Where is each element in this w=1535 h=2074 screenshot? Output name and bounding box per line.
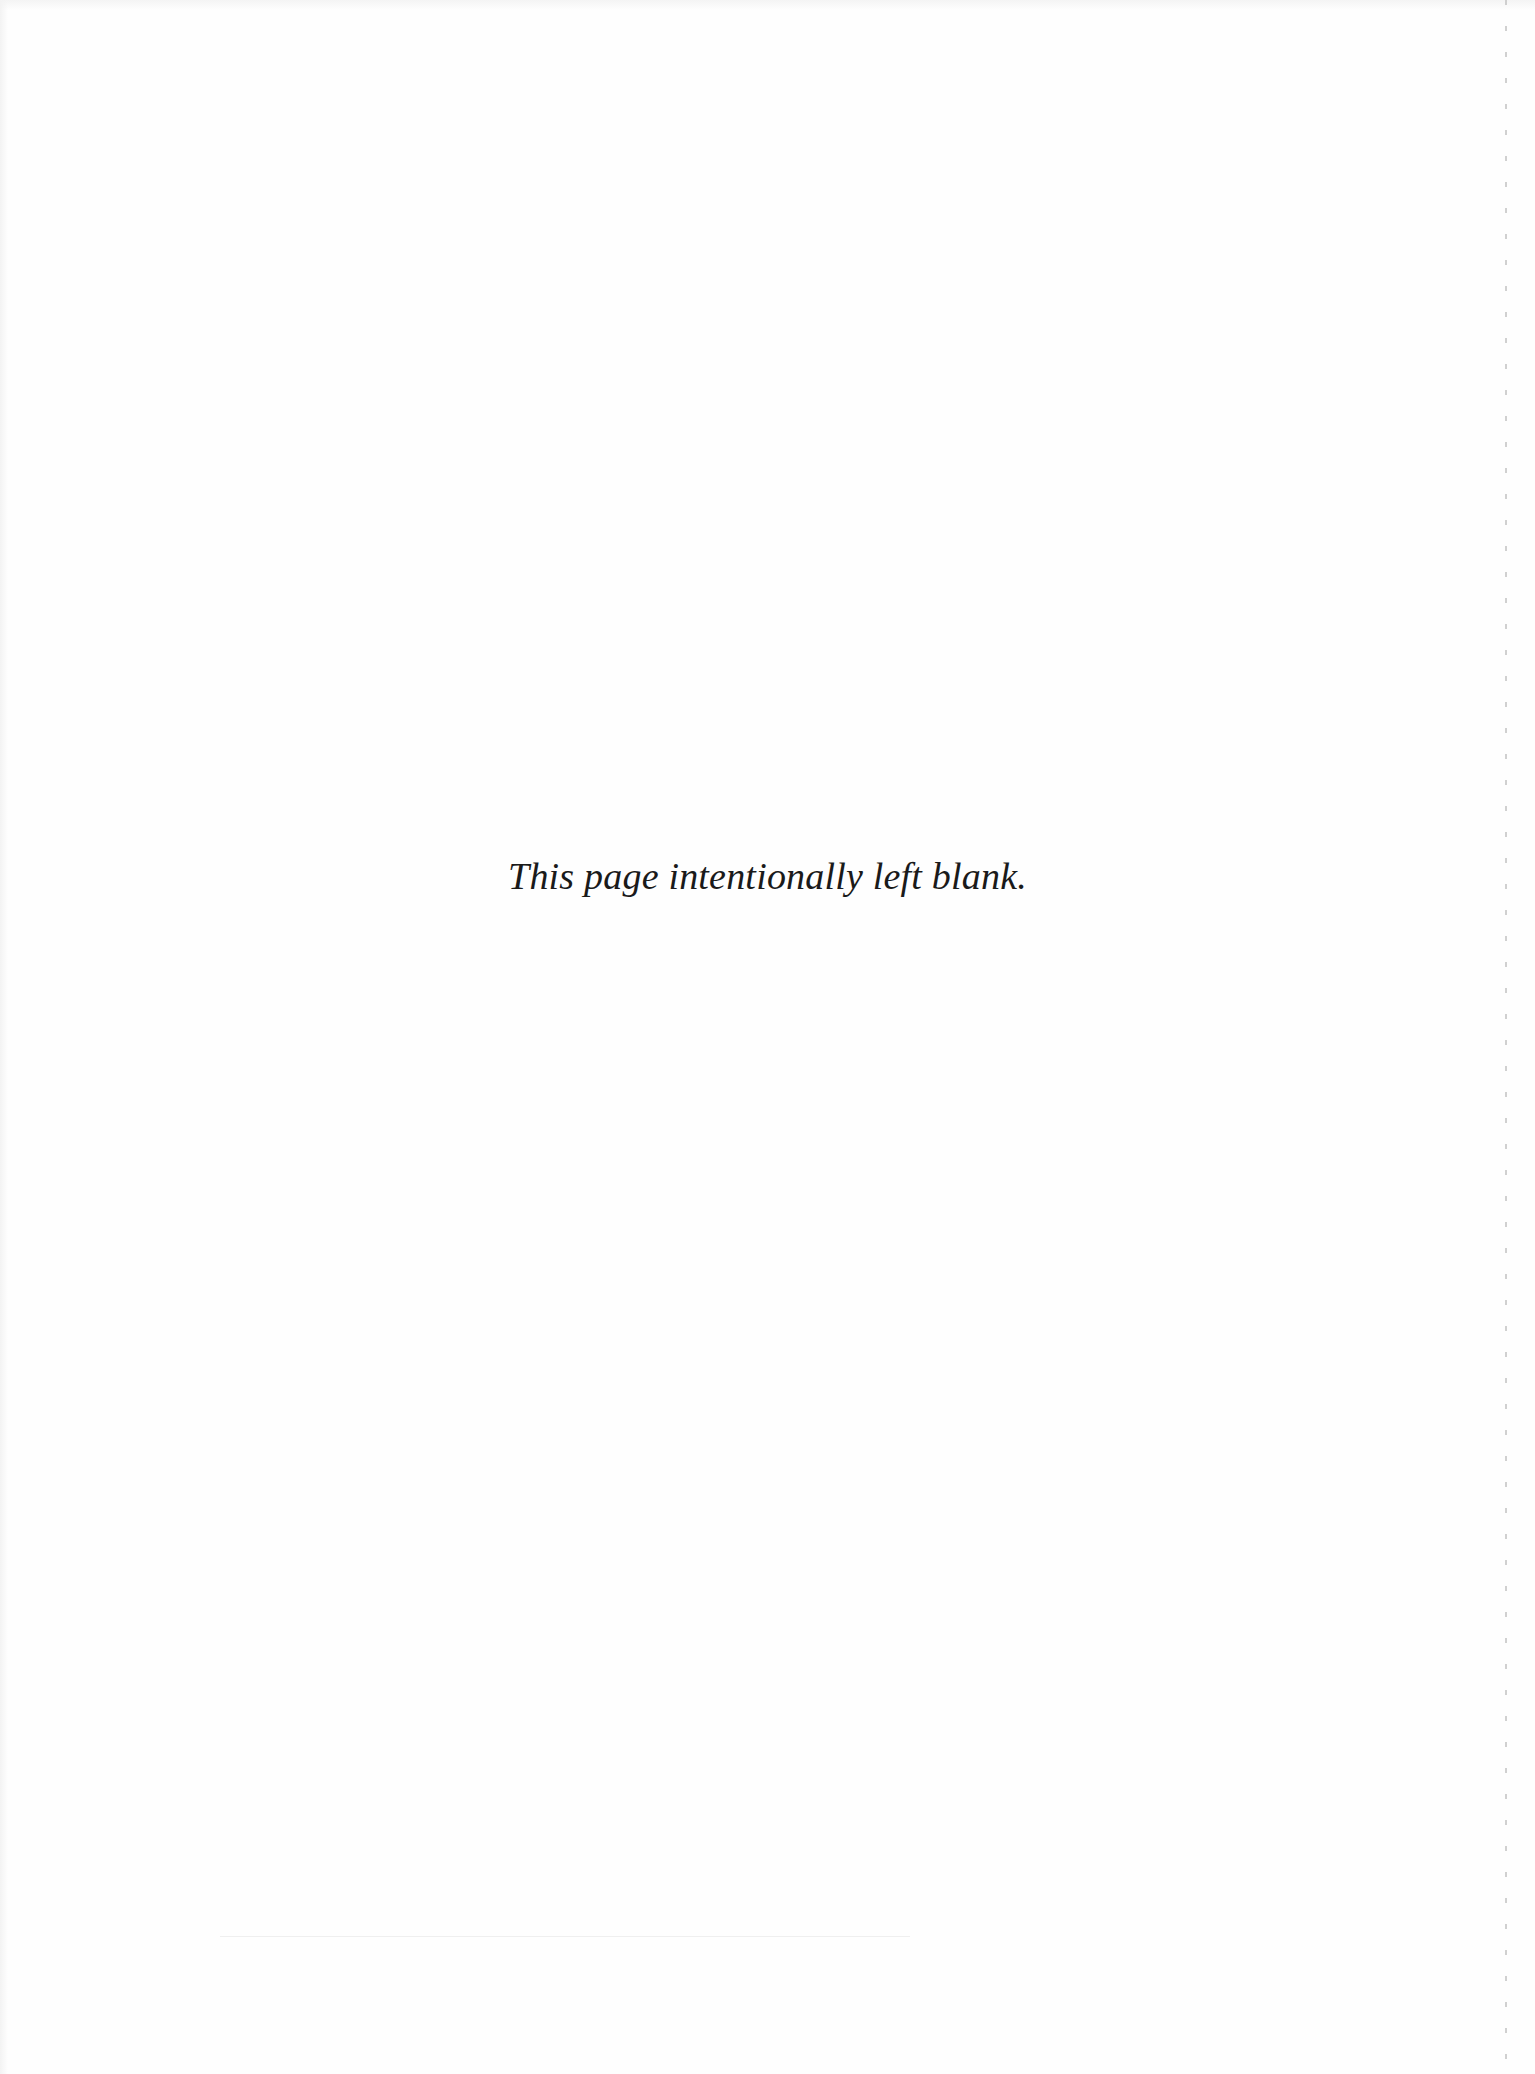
scan-edge-shadow-top — [0, 0, 1535, 10]
document-page: This page intentionally left blank. — [0, 0, 1535, 2074]
scan-edge-shadow-left — [0, 0, 8, 2074]
perforation-line — [1505, 0, 1507, 2074]
blank-page-notice: This page intentionally left blank. — [0, 852, 1535, 900]
faint-bottom-rule — [220, 1936, 910, 1937]
